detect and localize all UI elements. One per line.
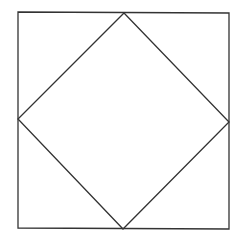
- diagram-canvas: [0, 0, 240, 239]
- background: [0, 0, 240, 239]
